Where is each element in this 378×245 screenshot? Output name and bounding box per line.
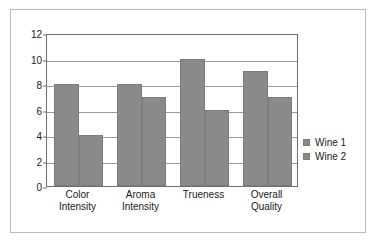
bar bbox=[54, 84, 79, 186]
y-axis-tick-label: 2 bbox=[36, 158, 42, 168]
legend-item[interactable]: Wine 1 bbox=[303, 137, 361, 148]
x-axis-category-labels: ColorIntensityAromaIntensityTruenessOver… bbox=[46, 189, 298, 229]
legend-swatch-icon bbox=[303, 139, 310, 146]
x-axis-category-label: Trueness bbox=[172, 189, 235, 201]
bar bbox=[180, 59, 205, 187]
x-axis-category-label: ColorIntensity bbox=[46, 189, 109, 212]
legend-label: Wine 2 bbox=[315, 152, 346, 162]
chart-frame: 024681012 ColorIntensityAromaIntensityTr… bbox=[10, 9, 366, 233]
category-label-line: Intensity bbox=[46, 201, 109, 213]
plot-area: 024681012 bbox=[46, 34, 298, 187]
category-label-line: Intensity bbox=[109, 201, 172, 213]
legend-label: Wine 1 bbox=[315, 138, 346, 148]
legend-swatch-icon bbox=[303, 153, 310, 160]
category-label-line: Color bbox=[46, 189, 109, 201]
legend-item[interactable]: Wine 2 bbox=[303, 151, 361, 162]
bar bbox=[243, 71, 268, 186]
category-label-line: Aroma bbox=[109, 189, 172, 201]
y-axis-tick-label: 8 bbox=[36, 81, 42, 91]
y-axis-tick-label: 6 bbox=[36, 107, 42, 117]
x-axis-category-label: AromaIntensity bbox=[109, 189, 172, 212]
y-axis-tick-label: 4 bbox=[36, 132, 42, 142]
category-label-line: Trueness bbox=[172, 189, 235, 201]
bar bbox=[117, 84, 142, 186]
bar bbox=[205, 110, 230, 187]
x-axis-category-label: OverallQuality bbox=[235, 189, 298, 212]
bar bbox=[142, 97, 167, 186]
bar-series-group bbox=[47, 35, 297, 186]
bar bbox=[268, 97, 293, 186]
chart-legend: Wine 1Wine 2 bbox=[303, 137, 361, 165]
y-axis-tick-label: 12 bbox=[31, 30, 42, 40]
y-axis-tick-label: 0 bbox=[36, 183, 42, 193]
bar bbox=[79, 135, 104, 186]
category-label-line: Quality bbox=[235, 201, 298, 213]
category-label-line: Overall bbox=[235, 189, 298, 201]
y-axis-tick-label: 10 bbox=[31, 56, 42, 66]
